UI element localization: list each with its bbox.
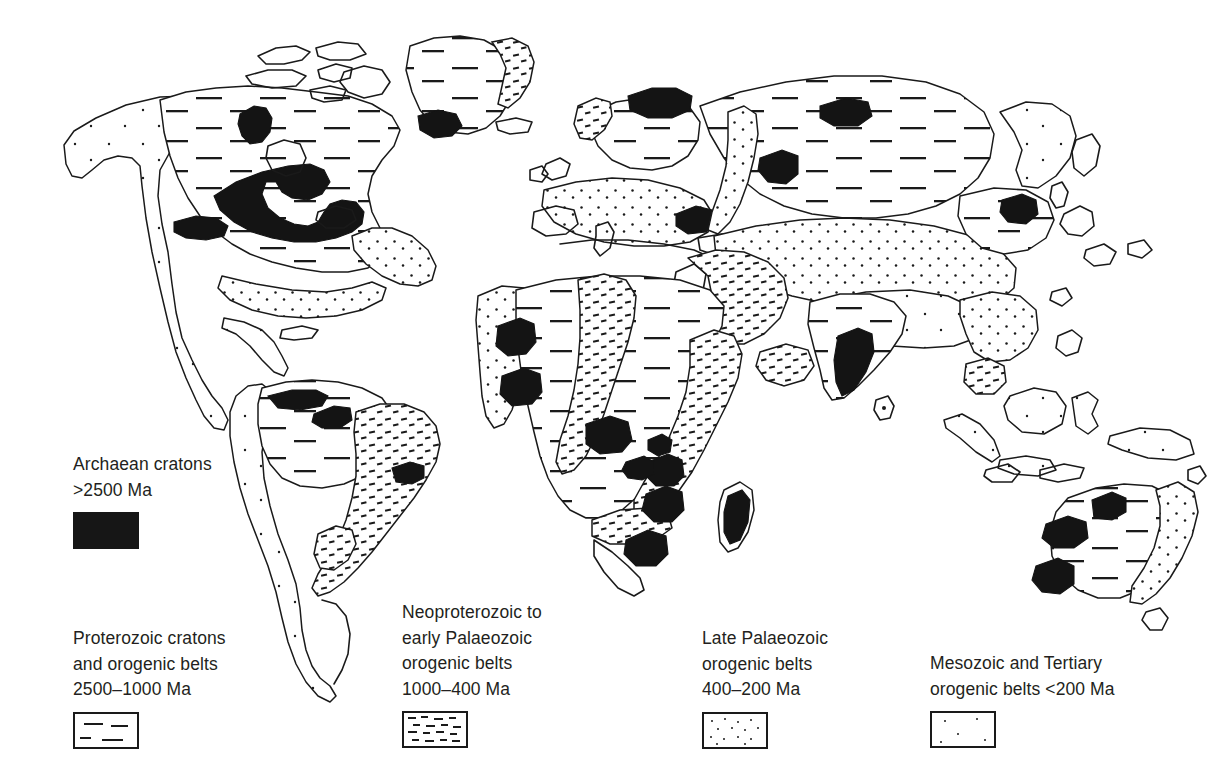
indonesia-sulawesi xyxy=(1072,392,1098,434)
legend-swatch-late-palaeozoic-pattern xyxy=(704,714,766,747)
pacific-island-c xyxy=(1050,288,1072,306)
tasmania xyxy=(1142,608,1168,630)
legend-swatch-neoproterozoic-pattern xyxy=(404,713,466,746)
iceland xyxy=(496,118,532,134)
pacific-island-a xyxy=(1084,244,1116,266)
legend-swatch-proterozoic-pattern xyxy=(75,714,137,747)
new-guinea xyxy=(1108,428,1194,460)
map-figure: Archaean cratons >2500 Ma Proterozoic cr… xyxy=(0,0,1212,778)
legend-swatch-archaean xyxy=(73,512,139,549)
legend-swatch-proterozoic xyxy=(73,712,139,749)
legend-item-neoproterozoic: Neoproterozoic to early Palaeozoic oroge… xyxy=(402,600,542,748)
legend-swatch-neoproterozoic xyxy=(402,711,468,748)
asia-southeast-belt xyxy=(960,292,1038,362)
arctic-island-b xyxy=(246,70,306,88)
legend-item-proterozoic: Proterozoic cratons and orogenic belts 2… xyxy=(73,626,226,749)
asia-indochina-belt xyxy=(964,358,1006,394)
indonesia-sumatra xyxy=(944,414,1000,462)
legend-swatch-late-palaeozoic xyxy=(702,712,768,749)
central-america xyxy=(222,318,288,376)
iran-zagros-belt xyxy=(756,344,814,386)
australia-yilgarn-craton xyxy=(1032,558,1074,594)
asia-far-east-belt xyxy=(1000,102,1076,188)
region-greenland xyxy=(406,36,534,138)
sri-lanka-dot xyxy=(882,406,886,410)
kamchatka xyxy=(1072,134,1100,176)
region-australia xyxy=(984,464,1206,630)
arctic-island-c xyxy=(318,64,352,82)
legend-item-late-palaeozoic: Late Palaeozoic orogenic belts 400–200 M… xyxy=(702,626,828,749)
legend-label-late-palaeozoic: Late Palaeozoic orogenic belts 400–200 M… xyxy=(702,626,828,703)
australia-pilbara-craton xyxy=(1042,516,1088,548)
legend-swatch-mesozoic-tertiary xyxy=(930,711,996,748)
philippines xyxy=(1056,330,1082,356)
indonesia-borneo xyxy=(1004,388,1066,434)
north-america-appalachian-belt xyxy=(352,228,436,286)
legend-swatch-mesozoic-tertiary-pattern xyxy=(932,713,994,746)
greenland-archaean-craton xyxy=(418,110,462,138)
caribbean-islands xyxy=(280,326,318,340)
region-north-america xyxy=(64,42,436,430)
japan xyxy=(1060,206,1094,236)
legend-label-neoproterozoic: Neoproterozoic to early Palaeozoic oroge… xyxy=(402,600,542,702)
india-dharwar-craton xyxy=(834,328,874,396)
legend-label-proterozoic: Proterozoic cratons and orogenic belts 2… xyxy=(73,626,226,703)
new-caledonia xyxy=(1188,466,1206,484)
arctic-island-a xyxy=(316,42,366,60)
sakhalin xyxy=(1050,182,1068,208)
europe-karelian-craton xyxy=(628,88,692,118)
region-africa xyxy=(476,274,754,596)
indonesia-java xyxy=(998,456,1056,476)
south-america-patagonia xyxy=(322,600,350,684)
legend-item-mesozoic-tertiary: Mesozoic and Tertiary orogenic belts <20… xyxy=(930,651,1115,748)
pacific-island-b xyxy=(1128,240,1152,258)
north-america-gulf-margin xyxy=(218,276,386,318)
legend-label-archaean: Archaean cratons >2500 Ma xyxy=(73,452,212,503)
arctic-archipelago xyxy=(258,46,310,64)
baffin-island xyxy=(340,66,390,98)
legend-label-mesozoic-tertiary: Mesozoic and Tertiary orogenic belts <20… xyxy=(930,651,1115,702)
africa-congo-craton-north xyxy=(586,416,632,454)
ireland xyxy=(530,166,548,182)
legend-item-archaean: Archaean cratons >2500 Ma xyxy=(73,452,212,549)
